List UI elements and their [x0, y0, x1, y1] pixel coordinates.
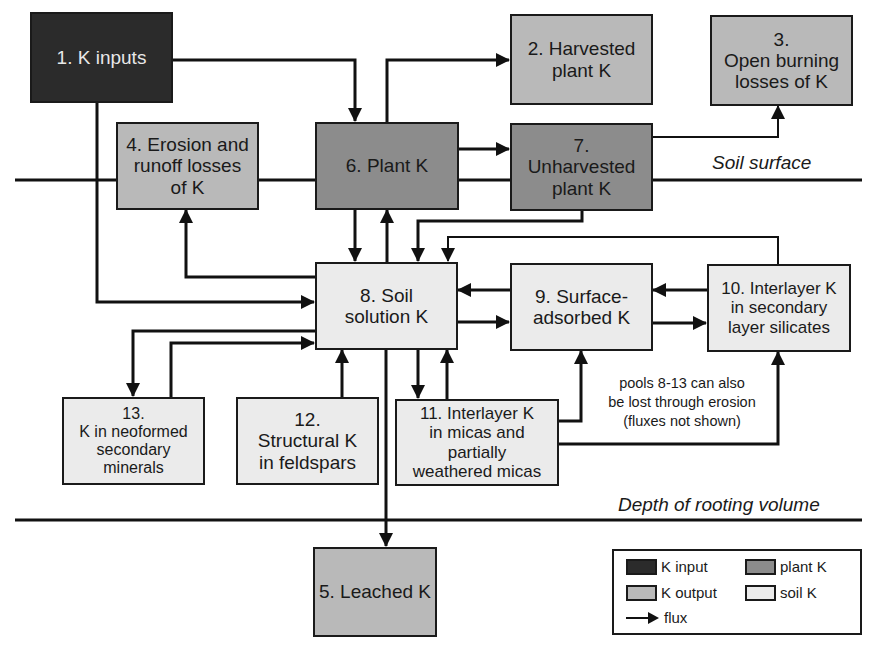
pool-label: 11. Interlayer K in micas and partially … — [413, 404, 542, 480]
pool-6-plant-k: 6. Plant K — [315, 122, 459, 210]
rooting-depth-label: Depth of rooting volume — [618, 494, 820, 516]
swatch-plant-k — [745, 559, 776, 575]
pool-label: 13. K in neoformed secondary minerals — [79, 405, 188, 477]
pool-label: 6. Plant K — [346, 155, 428, 176]
pool-label: 1. K inputs — [57, 47, 147, 68]
pool-label: 7. Unharvested plant K — [528, 135, 636, 199]
pool-label: 8. Soil solution K — [345, 285, 428, 328]
pool-9-surface-adsorbed-k: 9. Surface- adsorbed K — [510, 263, 653, 351]
pool-10-interlayer-k-secondary: 10. Interlayer K in secondary layer sili… — [707, 264, 851, 352]
pool-label: 3. Open burning losses of K — [724, 29, 839, 93]
pool-1-k-inputs: 1. K inputs — [30, 12, 173, 103]
pool-11-interlayer-k-micas: 11. Interlayer K in micas and partially … — [395, 399, 559, 486]
legend-label: plant K — [780, 558, 827, 575]
pool-label: 4. Erosion and runoff losses of K — [126, 134, 249, 198]
pool-label: 12. Structural K in feldspars — [258, 409, 357, 473]
flux-arrow-icon — [626, 611, 660, 625]
legend-item-plant-k: plant K — [745, 558, 827, 575]
pool-5-leached-k: 5. Leached K — [313, 547, 437, 637]
pool-label: 10. Interlayer K in secondary layer sili… — [721, 279, 836, 336]
pool-2-harvested-plant-k: 2. Harvested plant K — [510, 14, 653, 105]
pool-label: 5. Leached K — [319, 581, 431, 602]
legend-item-k-input: K input — [626, 558, 708, 575]
erosion-note: pools 8-13 can also be lost through eros… — [582, 374, 782, 431]
legend-label: K output — [661, 584, 717, 601]
legend-label: flux — [664, 609, 687, 626]
swatch-soil-k — [745, 585, 776, 601]
pool-8-soil-solution-k: 8. Soil solution K — [315, 262, 458, 350]
pool-12-structural-k-feldspars: 12. Structural K in feldspars — [236, 397, 379, 485]
pool-3-open-burning-losses: 3. Open burning losses of K — [710, 15, 853, 106]
pool-4-erosion-runoff-losses: 4. Erosion and runoff losses of K — [116, 122, 259, 210]
legend-item-flux: flux — [626, 609, 687, 626]
swatch-k-output — [626, 585, 657, 601]
legend-item-k-output: K output — [626, 584, 717, 601]
swatch-k-input — [626, 559, 657, 575]
soil-surface-label: Soil surface — [712, 152, 811, 174]
pool-label: 9. Surface- adsorbed K — [533, 286, 630, 329]
pool-7-unharvested-plant-k: 7. Unharvested plant K — [510, 123, 653, 211]
legend: K input plant K K output soil K flux — [612, 549, 862, 635]
legend-item-soil-k: soil K — [745, 584, 817, 601]
legend-label: soil K — [780, 584, 817, 601]
legend-label: K input — [661, 558, 708, 575]
pool-13-k-neoformed-minerals: 13. K in neoformed secondary minerals — [62, 397, 205, 485]
pool-label: 2. Harvested plant K — [528, 38, 636, 81]
